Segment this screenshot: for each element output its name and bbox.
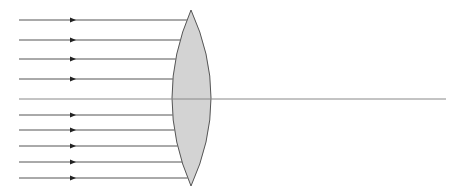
arrow-icon <box>70 160 76 165</box>
arrow-icon <box>70 57 76 62</box>
arrow-icon <box>70 176 76 181</box>
arrow-icon <box>70 38 76 43</box>
arrow-icon <box>70 77 76 82</box>
arrow-icon <box>70 128 76 133</box>
lens-diagram <box>0 0 461 195</box>
arrow-icon <box>70 113 76 118</box>
arrow-icon <box>70 144 76 149</box>
convex-lens <box>172 10 211 186</box>
arrow-icon <box>70 18 76 23</box>
